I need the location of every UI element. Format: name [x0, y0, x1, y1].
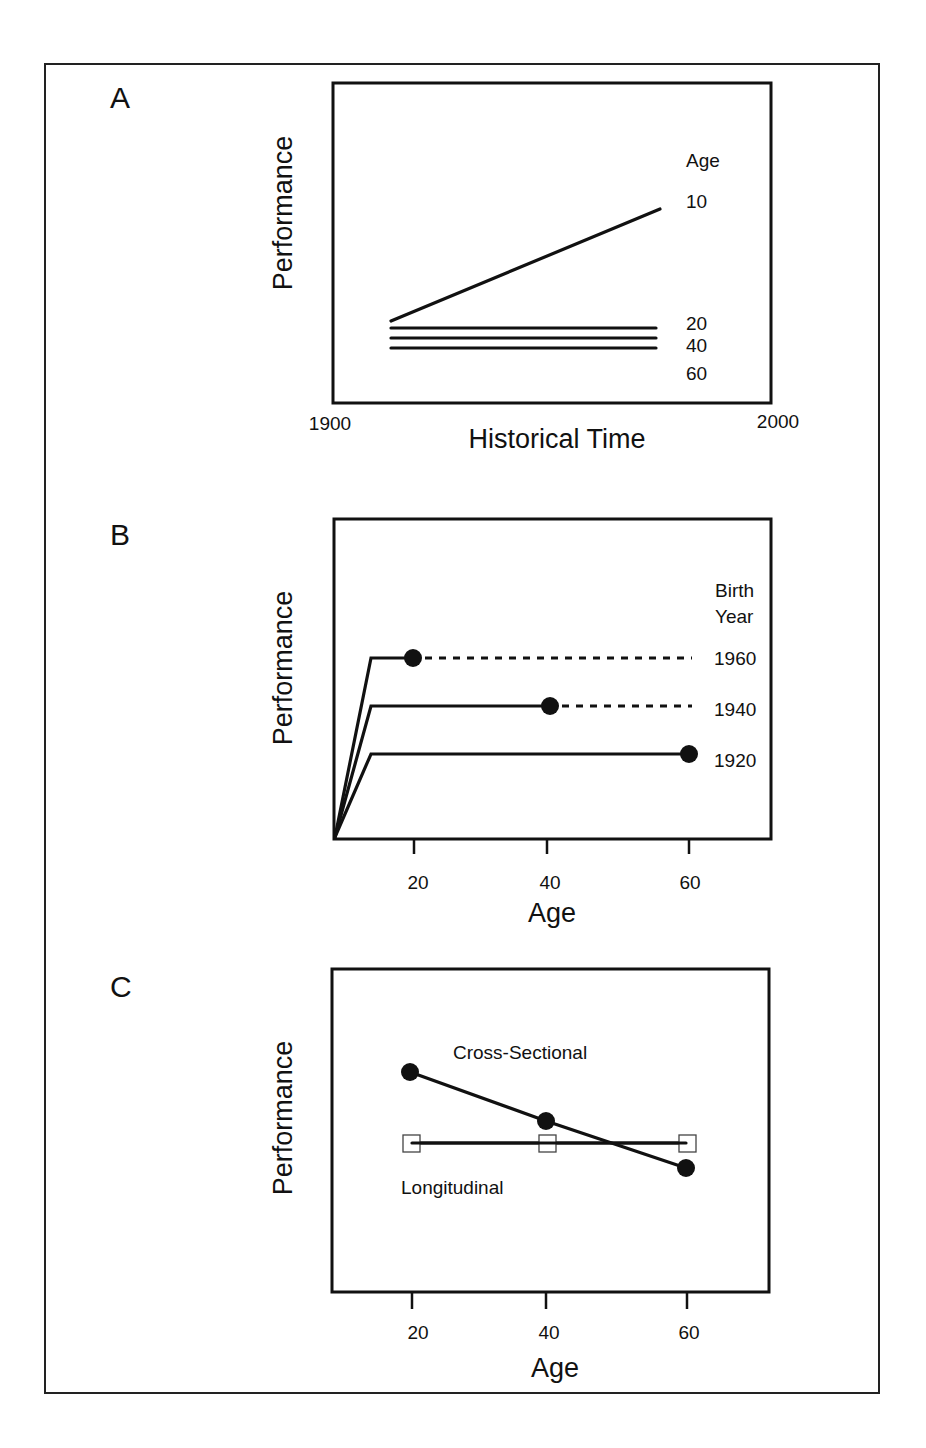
figure: A Performance Historical Time 1900 2000 … — [0, 0, 926, 1448]
panel-a-label-age-60: 60 — [686, 363, 707, 384]
panel-c-marker-cross-sectional-20 — [401, 1063, 419, 1081]
panel-c-x-tick-label-20: 20 — [407, 1322, 428, 1343]
panel-b-plot-area — [334, 519, 771, 839]
panel-b-line-1920-observed — [335, 754, 689, 837]
panel-c-x-tick-label-60: 60 — [678, 1322, 699, 1343]
panel-c-y-axis-label: Performance — [268, 1041, 298, 1196]
panel-b: B Performance Age 20 40 60 Birth Year 19… — [110, 518, 771, 928]
panel-b-legend-title-line2: Year — [715, 606, 754, 627]
panel-c-marker-cross-sectional-60 — [677, 1159, 695, 1177]
panel-a-y-axis-label: Performance — [268, 136, 298, 291]
panel-a-label-age-40: 40 — [686, 335, 707, 356]
panel-b-label-1920: 1920 — [714, 750, 756, 771]
panel-a-x-tick-2000: 2000 — [757, 411, 799, 432]
panel-b-x-axis-label: Age — [528, 898, 576, 928]
panel-a-label-age-10: 10 — [686, 191, 707, 212]
panel-b-label-1960: 1960 — [714, 648, 756, 669]
panel-b-x-tick-label-20: 20 — [407, 872, 428, 893]
panel-a-label-age-20: 20 — [686, 313, 707, 334]
panel-c: C Performance Age 20 40 60 Cross-Section… — [110, 969, 769, 1383]
panel-b-legend-title-line1: Birth — [715, 580, 754, 601]
panel-b-label-1940: 1940 — [714, 699, 756, 720]
panel-c-x-axis-label: Age — [531, 1353, 579, 1383]
panel-a-line-age-10 — [391, 209, 660, 321]
panel-c-marker-cross-sectional-40 — [537, 1112, 555, 1130]
panel-c-plot-area — [332, 969, 769, 1292]
panel-a-legend-title: Age — [686, 150, 720, 171]
panel-a-x-axis-label: Historical Time — [468, 424, 645, 454]
panel-c-x-tick-label-40: 40 — [538, 1322, 559, 1343]
panel-b-letter: B — [110, 518, 130, 551]
panel-a-x-tick-1900: 1900 — [309, 413, 351, 434]
panel-c-label-longitudinal: Longitudinal — [401, 1177, 503, 1198]
panel-a-letter: A — [110, 81, 130, 114]
panel-c-label-cross-sectional: Cross-Sectional — [453, 1042, 587, 1063]
panel-a: A Performance Historical Time 1900 2000 … — [110, 81, 799, 454]
panel-b-marker-1940 — [541, 697, 559, 715]
panel-b-y-axis-label: Performance — [268, 591, 298, 746]
panel-b-marker-1960 — [404, 649, 422, 667]
panel-b-x-tick-label-40: 40 — [539, 872, 560, 893]
panel-c-letter: C — [110, 970, 132, 1003]
panel-b-line-1940-observed — [335, 706, 550, 837]
panel-b-marker-1920 — [680, 745, 698, 763]
panel-b-x-tick-label-60: 60 — [679, 872, 700, 893]
